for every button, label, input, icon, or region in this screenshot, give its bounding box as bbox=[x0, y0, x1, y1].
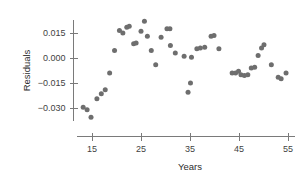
y-tick-label: 0.015 bbox=[43, 28, 66, 38]
y-tick-label: −0.030 bbox=[38, 103, 66, 113]
data-point bbox=[103, 87, 108, 92]
data-point bbox=[120, 31, 125, 36]
data-point bbox=[252, 65, 257, 70]
data-point bbox=[159, 35, 164, 40]
data-point bbox=[189, 55, 194, 60]
x-tick-label: 35 bbox=[185, 144, 195, 154]
data-point bbox=[167, 26, 172, 31]
scatter-plot-svg: 0.0150.000−0.015−0.0301525354555YearsRes… bbox=[0, 0, 308, 181]
data-point bbox=[94, 96, 99, 101]
y-tick-label: 0.000 bbox=[43, 53, 66, 63]
data-point bbox=[245, 72, 250, 77]
data-point bbox=[256, 53, 261, 58]
data-point bbox=[107, 71, 112, 76]
data-point bbox=[89, 115, 94, 120]
data-point bbox=[139, 29, 144, 34]
data-point bbox=[279, 76, 284, 81]
data-point bbox=[112, 48, 117, 53]
data-point bbox=[168, 43, 173, 48]
data-point bbox=[212, 33, 217, 38]
x-tick-label: 15 bbox=[87, 144, 97, 154]
data-point bbox=[145, 34, 150, 39]
data-point bbox=[134, 41, 139, 46]
data-point bbox=[198, 46, 203, 51]
y-tick-label: −0.015 bbox=[38, 78, 66, 88]
axes-group bbox=[70, 20, 296, 141]
y-axis-title: Residuals bbox=[21, 49, 32, 91]
data-point bbox=[188, 81, 193, 86]
data-point bbox=[284, 71, 289, 76]
data-point bbox=[182, 54, 187, 59]
data-point bbox=[127, 24, 132, 29]
data-point bbox=[149, 48, 154, 53]
data-point bbox=[216, 46, 221, 51]
data-points-group bbox=[81, 19, 289, 120]
data-point bbox=[186, 90, 191, 95]
data-point bbox=[202, 45, 207, 50]
residual-scatter-figure: 0.0150.000−0.015−0.0301525354555YearsRes… bbox=[0, 0, 308, 181]
data-point bbox=[142, 19, 147, 24]
data-point bbox=[261, 42, 266, 47]
data-point bbox=[173, 51, 178, 56]
axis-labels-group: 0.0150.000−0.015−0.0301525354555YearsRes… bbox=[21, 28, 293, 171]
x-tick-label: 25 bbox=[136, 144, 146, 154]
data-point bbox=[99, 91, 104, 96]
x-tick-label: 45 bbox=[234, 144, 244, 154]
data-point bbox=[85, 107, 90, 112]
data-point bbox=[153, 62, 158, 67]
x-axis-title: Years bbox=[178, 161, 202, 172]
x-tick-label: 55 bbox=[283, 144, 293, 154]
data-point bbox=[269, 62, 274, 67]
